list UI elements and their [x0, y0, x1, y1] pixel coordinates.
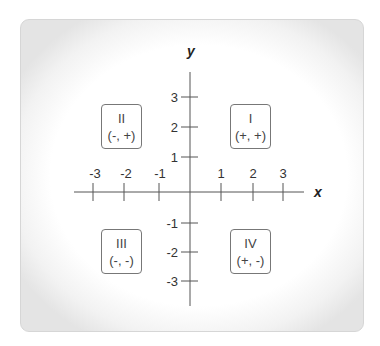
- quadrant-iii-box: III (-, -): [101, 229, 142, 274]
- quadrant-signs: (-, +): [102, 127, 141, 144]
- y-tick-label: -3: [166, 274, 178, 289]
- coordinate-plane: -3 -2 -1 1 2 3 3 2 1 -1 -2 -3 x y: [0, 0, 380, 346]
- y-tick-label: -1: [166, 216, 178, 231]
- quadrant-numeral: IV: [231, 235, 270, 252]
- y-tick-label: 2: [171, 120, 178, 135]
- quadrant-numeral: II: [102, 110, 141, 127]
- quadrant-i-box: I (+, +): [230, 104, 271, 149]
- y-tick-label: -2: [166, 245, 178, 260]
- x-tick-label: 2: [249, 166, 256, 181]
- x-tick-label: 1: [217, 166, 224, 181]
- quadrant-numeral: III: [102, 235, 141, 252]
- quadrant-signs: (+, -): [231, 252, 270, 269]
- x-tick-label: 3: [279, 166, 286, 181]
- quadrant-signs: (+, +): [231, 127, 270, 144]
- quadrant-ii-box: II (-, +): [101, 104, 142, 149]
- y-tick-label: 1: [171, 150, 178, 165]
- x-tick-label: -3: [89, 166, 101, 181]
- quadrant-numeral: I: [231, 110, 270, 127]
- quadrant-signs: (-, -): [102, 252, 141, 269]
- x-axis-label: x: [313, 184, 323, 200]
- x-tick-label: -2: [120, 166, 132, 181]
- x-tick-label: -1: [154, 166, 166, 181]
- y-axis-label: y: [186, 43, 196, 59]
- quadrant-iv-box: IV (+, -): [230, 229, 271, 274]
- y-tick-label: 3: [171, 90, 178, 105]
